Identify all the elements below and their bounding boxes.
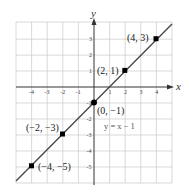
- x-tick: 3: [140, 89, 143, 95]
- point-label-4-3: (4, 3): [127, 32, 149, 44]
- point-label-2-1: (2, 1): [97, 65, 119, 77]
- y-tick: 2: [89, 52, 92, 58]
- y-tick: -4: [87, 148, 92, 154]
- point-neg2-neg3: [60, 132, 65, 137]
- y-tick: -2: [87, 116, 92, 122]
- x-tick: 4: [155, 89, 158, 95]
- point-neg4-neg5: [29, 163, 34, 168]
- y-tick: 3: [89, 36, 92, 42]
- x-tick: 1: [109, 89, 112, 95]
- point-4-3: [154, 36, 159, 41]
- equation-label: y = x − 1: [104, 121, 135, 131]
- x-tick: -1: [76, 89, 81, 95]
- y-axis-arrow-icon: [92, 18, 97, 25]
- point-label-0-neg1: (0, −1): [97, 105, 124, 117]
- x-axis-arrow-icon: [167, 85, 174, 90]
- x-tick: -4: [29, 89, 34, 95]
- y-tick: -3: [87, 132, 92, 138]
- x-tick: 2: [124, 89, 127, 95]
- point-2-1: [122, 68, 127, 73]
- x-tick: -3: [45, 89, 50, 95]
- y-tick: -5: [87, 164, 92, 170]
- point-label-neg2-neg3: (−2, −3): [26, 122, 59, 134]
- x-axis-label: x: [175, 80, 181, 92]
- coordinate-plane: x y -4 -3 -2 -1 1 2 3 4 3 2 1 -1 -2 -3 -…: [0, 0, 189, 194]
- x-tick: -2: [60, 89, 65, 95]
- y-axis-label: y: [90, 7, 96, 19]
- point-label-neg4-neg5: (−4, −5): [38, 161, 71, 173]
- y-tick: 1: [89, 68, 92, 74]
